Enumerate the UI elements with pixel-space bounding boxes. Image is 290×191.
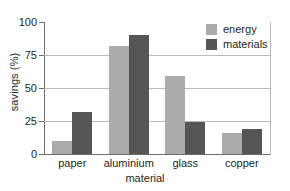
gridline — [44, 55, 270, 56]
bar-copper-materials — [242, 129, 262, 154]
x-axis-label-glass: glass — [172, 157, 198, 169]
legend-swatch-materials-icon — [206, 39, 217, 50]
bar-glass-energy — [165, 76, 185, 154]
chart-legend: energy materials — [206, 22, 268, 52]
y-axis-tick-label: 75 — [25, 49, 37, 61]
y-axis-title: savings (%) — [8, 42, 20, 122]
bar-paper-materials — [72, 112, 92, 154]
x-axis-label-copper: copper — [225, 157, 259, 169]
legend-swatch-energy-icon — [206, 24, 217, 35]
y-axis-tick — [39, 88, 44, 89]
bar-aluminium-energy — [109, 46, 129, 154]
bar-chart: savings (%) 0255075100 paperaluminiumgla… — [0, 0, 290, 191]
bar-copper-energy — [222, 133, 242, 154]
x-axis-title: material — [0, 172, 290, 184]
y-axis-tick — [39, 22, 44, 23]
x-axis-label-paper: paper — [58, 157, 86, 169]
bar-paper-energy — [52, 141, 72, 154]
y-axis-tick — [39, 121, 44, 122]
x-axis-label-aluminium: aluminium — [104, 157, 154, 169]
gridline — [44, 88, 270, 89]
legend-label-energy: energy — [223, 23, 257, 35]
bar-aluminium-materials — [129, 35, 149, 154]
legend-item-energy: energy — [206, 22, 268, 36]
bar-glass-materials — [185, 122, 205, 154]
y-axis-tick-label: 0 — [31, 148, 37, 160]
legend-item-materials: materials — [206, 37, 268, 51]
x-axis-line — [44, 154, 271, 155]
y-axis-tick — [39, 154, 44, 155]
y-axis-tick-label: 50 — [25, 82, 37, 94]
legend-label-materials: materials — [223, 38, 268, 50]
y-axis-tick — [39, 55, 44, 56]
y-axis-tick-label: 100 — [19, 16, 37, 28]
y-axis-tick-label: 25 — [25, 115, 37, 127]
